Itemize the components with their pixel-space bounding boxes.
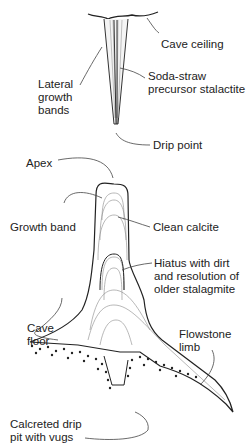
label-drip-pit: Calcreted drip pit with vugs (10, 418, 82, 444)
cave-ceiling-line (88, 12, 158, 19)
label-soda-straw: Soda-straw precursor stalactite (148, 70, 245, 96)
label-clean-calcite: Clean calcite (153, 221, 219, 234)
label-cave-ceiling: Cave ceiling (161, 38, 224, 51)
label-flowstone-limb: Flowstone limb (179, 328, 231, 354)
label-lateral-growth-bands: Lateral growth bands (38, 78, 73, 117)
label-growth-band: Growth band (10, 221, 76, 234)
label-drip-point: Drip point (153, 139, 202, 152)
label-hiatus: Hiatus with dirt and resolution of older… (154, 257, 239, 296)
label-cave-floor: Cave floor (27, 322, 54, 348)
label-apex: Apex (26, 157, 52, 170)
stalagmite (30, 183, 233, 412)
